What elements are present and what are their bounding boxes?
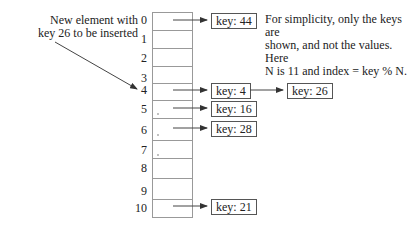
callout-arrow-icon [55, 42, 137, 89]
arrows-layer [0, 0, 414, 228]
